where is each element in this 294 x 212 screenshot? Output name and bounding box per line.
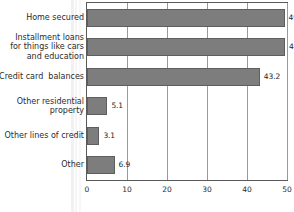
bar [87, 68, 260, 86]
bar-value-label: 49.4 [289, 14, 294, 22]
x-tick-label: 40 [242, 186, 252, 194]
x-tick-label: 10 [122, 186, 132, 194]
x-tick-label: 30 [202, 186, 212, 194]
category-label: Home secured [0, 13, 84, 23]
gridline [207, 3, 208, 180]
bar-chart: 49.449.543.25.13.16.9 Home securedInstal… [0, 0, 294, 212]
bar-value-label: 6.9 [119, 161, 131, 169]
plot-inner: 49.449.543.25.13.16.9 [87, 3, 287, 180]
gridline [167, 3, 168, 180]
gridline [247, 3, 248, 180]
category-label: Credit card balances [0, 72, 84, 82]
bar-value-label: 49.5 [289, 43, 294, 51]
gridline [127, 3, 128, 180]
category-label: Other residential property [0, 97, 84, 116]
bar-value-label: 5.1 [111, 102, 123, 110]
bar-row: 49.5 [87, 38, 287, 56]
bar-value-label: 3.1 [103, 132, 115, 140]
bar [87, 38, 285, 56]
x-tick-label: 50 [282, 186, 292, 194]
x-tick-label: 20 [162, 186, 172, 194]
bar-row: 49.4 [87, 9, 287, 27]
bar [87, 127, 99, 145]
bar-row: 5.1 [87, 97, 287, 115]
bar-row: 43.2 [87, 68, 287, 86]
bar [87, 156, 115, 174]
category-label: Other lines of credit [0, 131, 84, 141]
category-label: Other [0, 160, 84, 170]
gridline [287, 3, 288, 180]
bar [87, 9, 285, 27]
bar-row: 6.9 [87, 156, 287, 174]
x-tick-label: 0 [85, 186, 90, 194]
bar-row: 3.1 [87, 127, 287, 145]
plot-area: 49.449.543.25.13.16.9 [86, 2, 288, 181]
bar-value-label: 43.2 [264, 73, 280, 81]
bar [87, 97, 107, 115]
category-label: Installment loans for things like cars a… [0, 33, 84, 62]
